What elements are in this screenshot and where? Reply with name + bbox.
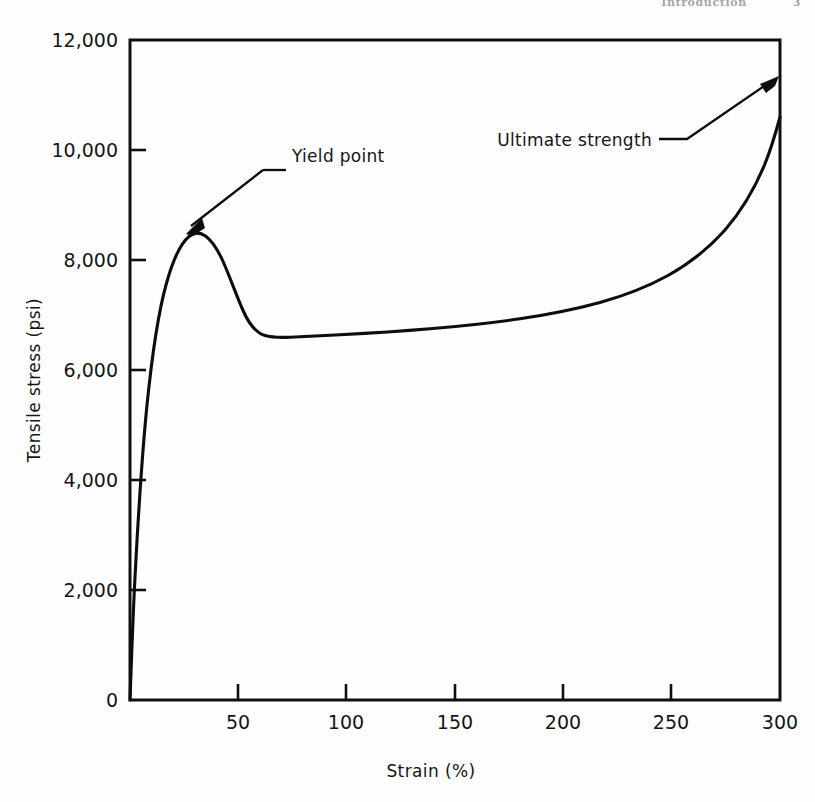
y-tick-label-10000: 10,000 <box>52 139 118 161</box>
y-tick-label-12000: 12,000 <box>52 29 118 51</box>
y-tick-label-8000: 8,000 <box>64 249 118 271</box>
x-axis-title: Strain (%) <box>386 761 475 781</box>
y-axis-tick-labels: 12,000 10,000 8,000 6,000 4,000 2,000 0 <box>52 29 118 711</box>
x-tick-label-200: 200 <box>545 711 581 733</box>
y-tick-label-2000: 2,000 <box>64 579 118 601</box>
annotation-ultimate-strength: Ultimate strength <box>497 76 779 150</box>
data-series-tensile-stress <box>130 117 780 700</box>
x-tick-label-250: 250 <box>653 711 689 733</box>
x-tick-label-150: 150 <box>437 711 473 733</box>
y-tick-label-6000: 6,000 <box>64 359 118 381</box>
yield-point-label: Yield point <box>291 146 385 166</box>
figure-root: Introduction 3 12,000 10,000 8,000 <box>0 0 815 802</box>
x-tick-label-100: 100 <box>328 711 364 733</box>
x-axis-tick-labels: 50 100 150 200 250 300 <box>226 711 798 733</box>
annotation-yield-point: Yield point <box>186 146 385 236</box>
y-tick-label-4000: 4,000 <box>64 469 118 491</box>
x-tick-label-300: 300 <box>762 711 798 733</box>
y-tick-label-0: 0 <box>106 689 118 711</box>
ultimate-strength-arrowhead <box>760 76 779 93</box>
stress-strain-chart: 12,000 10,000 8,000 6,000 4,000 2,000 0 … <box>0 0 815 802</box>
ultimate-strength-label: Ultimate strength <box>497 130 652 150</box>
x-axis-ticks <box>238 684 671 700</box>
y-axis-title: Tensile stress (psi) <box>24 298 44 463</box>
x-tick-label-50: 50 <box>226 711 250 733</box>
